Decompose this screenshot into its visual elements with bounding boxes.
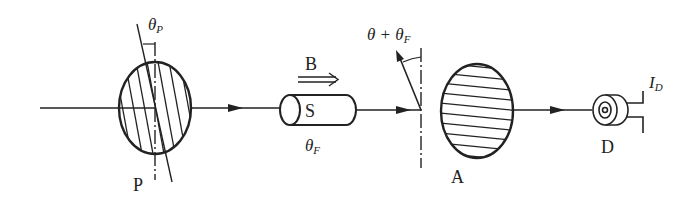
polarization-arrow-icon bbox=[396, 50, 404, 62]
theta-plus-thetaf-label: θ + θF bbox=[367, 25, 411, 45]
faraday-setup-diagram: θP P B S θF θ + θF bbox=[0, 0, 698, 199]
solenoid-label: S bbox=[305, 101, 315, 121]
solenoid: S θF bbox=[280, 95, 356, 156]
detector: D ID bbox=[593, 73, 663, 157]
b-field-label: B bbox=[305, 54, 317, 74]
analyzer: A bbox=[430, 52, 530, 187]
rotated-polarization: θ + θF bbox=[367, 25, 421, 168]
magnetic-field: B bbox=[298, 54, 338, 86]
double-arrow-icon bbox=[298, 73, 338, 86]
beam-arrow-icon bbox=[396, 106, 411, 114]
polarizer: θP P bbox=[99, 15, 211, 195]
detector-current-label: ID bbox=[648, 73, 663, 93]
beam-arrows bbox=[228, 104, 565, 114]
detector-label: D bbox=[601, 137, 614, 157]
polarizer-label: P bbox=[133, 175, 143, 195]
theta-p-label: θP bbox=[148, 15, 163, 35]
beam-arrow-icon bbox=[550, 106, 565, 114]
beam-arrow-icon bbox=[228, 104, 243, 112]
theta-f-label: θF bbox=[305, 136, 320, 156]
analyzer-label: A bbox=[451, 167, 464, 187]
